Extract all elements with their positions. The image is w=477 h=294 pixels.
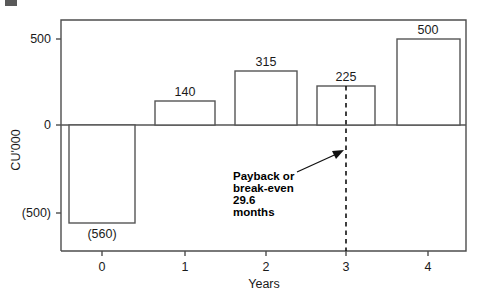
x-tick-label-1: 1 [182,260,189,274]
bar-label-year-2: 315 [256,55,277,69]
bar-label-year-4: 500 [418,23,439,37]
annotation-line-3: 29.6 [233,194,255,206]
bar-year-2 [235,71,297,125]
x-tick-label-2: 2 [263,260,270,274]
x-tick-label-0: 0 [99,260,106,274]
y-tick-label-0: 0 [44,118,51,132]
chart-canvas: 500 0 (500) CU'000 (560) 140 315 225 500… [0,0,477,294]
x-tick-label-3: 3 [343,260,350,274]
y-tick-label-500: 500 [30,32,51,46]
bar-year-0 [69,125,135,223]
y-tick-label-neg500: (500) [22,206,51,220]
annotation-line-2: break-even [233,182,294,194]
x-tick-label-4: 4 [425,260,432,274]
bar-label-year-3: 225 [336,70,357,84]
y-axis-title: CU'000 [9,129,23,170]
bar-year-1 [155,101,215,125]
bar-label-year-0: (560) [87,227,116,241]
annotation-line-1: Payback or [233,170,295,182]
bar-label-year-1: 140 [175,85,196,99]
annotation-line-4: months [233,206,275,218]
payback-bar-chart: 500 0 (500) CU'000 (560) 140 315 225 500… [0,0,477,294]
bar-year-4 [397,39,460,125]
x-axis-title: Years [248,277,280,291]
payback-arrow-head [332,150,344,159]
